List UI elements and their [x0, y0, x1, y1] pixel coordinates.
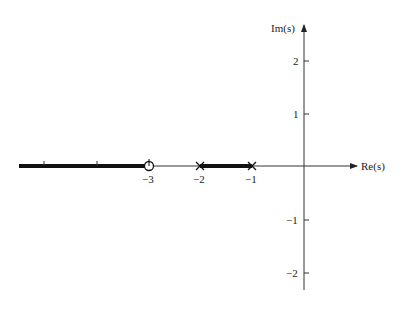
real-axis-label: Re(s): [361, 160, 385, 173]
x-tick-label-minus2: −2: [193, 173, 205, 185]
y-tick-label-2: 2: [293, 55, 299, 67]
imaginary-axis-label: Im(s): [271, 22, 295, 35]
y-tick-label-minus2: −2: [286, 267, 298, 279]
zero-marker-minus3: [145, 159, 154, 171]
y-tick-label-minus1: −1: [286, 214, 298, 226]
root-locus-diagram: Re(s) Im(s) −3 −2 −1 2 1 −1 −2: [0, 0, 419, 325]
x-tick-label-minus3: −3: [142, 173, 154, 185]
y-tick-label-1: 1: [293, 108, 299, 120]
x-tick-label-minus1: −1: [245, 173, 257, 185]
